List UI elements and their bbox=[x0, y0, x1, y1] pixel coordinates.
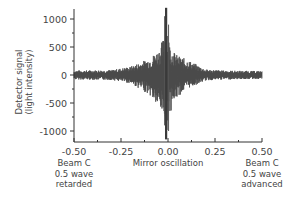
signal-trace bbox=[74, 8, 262, 140]
svg-text:Detector signal: Detector signal bbox=[14, 50, 24, 115]
svg-text:(light intensity): (light intensity) bbox=[24, 49, 34, 114]
x-tick-label: 0.25 bbox=[204, 146, 225, 157]
x-tick-label: -0.25 bbox=[109, 146, 134, 157]
y-tick-label: 1000 bbox=[43, 14, 67, 25]
y-tick-label: 0 bbox=[61, 70, 67, 81]
x-tick-label: 0.00 bbox=[157, 146, 178, 157]
signal-line bbox=[74, 31, 262, 130]
y-axis-label: Detector signal(light intensity) bbox=[14, 49, 34, 114]
y-tick-label: -1000 bbox=[39, 126, 67, 137]
x-tick-label: -0.50 bbox=[62, 146, 87, 157]
annotation-advanced: Beam C bbox=[245, 158, 278, 168]
y-tick-label: -500 bbox=[45, 98, 67, 109]
annotation-retarded: 0.5 wave bbox=[55, 169, 94, 179]
annotation-advanced: 0.5 wave bbox=[243, 169, 282, 179]
annotation-retarded: retarded bbox=[56, 179, 92, 189]
x-tick-label: 0.50 bbox=[251, 146, 272, 157]
y-tick-label: 500 bbox=[49, 42, 67, 53]
annotation-retarded: Beam C bbox=[57, 158, 90, 168]
labels: 10005000-500-1000-0.50-0.250.000.250.50M… bbox=[14, 14, 283, 190]
annotation-advanced: advanced bbox=[241, 179, 283, 189]
x-axis-label: Mirror oscillation bbox=[133, 158, 204, 168]
interferogram-chart: 10005000-500-1000-0.50-0.250.000.250.50M… bbox=[0, 0, 299, 202]
